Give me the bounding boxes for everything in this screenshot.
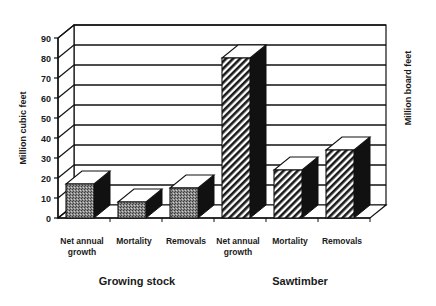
y-axis-label-left: Million cubic feet — [18, 91, 28, 164]
x-category-label: Removals — [322, 236, 362, 246]
y-tick-label: 70 — [41, 74, 51, 84]
y-tick-label: 40 — [41, 134, 51, 144]
group-label-growing-stock: Growing stock — [99, 275, 176, 287]
y-tick-label: 20 — [41, 174, 51, 184]
bar-1 — [66, 171, 110, 218]
x-category-label: Net annual — [216, 236, 259, 246]
x-axis-labels: Net annualgrowthMortalityRemovalsNet ann… — [60, 236, 362, 257]
y-axis-label-right: Million board feet — [403, 51, 413, 126]
y-tick-label: 50 — [41, 114, 51, 124]
x-category-label: growth — [224, 247, 252, 257]
bar-4 — [222, 45, 266, 218]
x-category-label: growth — [68, 247, 96, 257]
y-tick-label: 30 — [41, 154, 51, 164]
x-category-label: Removals — [166, 236, 206, 246]
y-tick-label: 80 — [41, 54, 51, 64]
y-tick-label: 0 — [46, 214, 51, 224]
x-category-label: Mortality — [116, 236, 152, 246]
bar-5 — [274, 157, 318, 218]
y-tick-label: 90 — [41, 34, 51, 44]
bar-chart-3d: 0102030405060708090 Net annualgrowthMort… — [0, 0, 436, 306]
group-label-sawtimber: Sawtimber — [272, 275, 328, 287]
y-tick-label: 60 — [41, 94, 51, 104]
bar-6 — [326, 137, 370, 218]
y-tick-label: 10 — [41, 194, 51, 204]
x-category-label: Mortality — [272, 236, 308, 246]
x-category-label: Net annual — [60, 236, 103, 246]
